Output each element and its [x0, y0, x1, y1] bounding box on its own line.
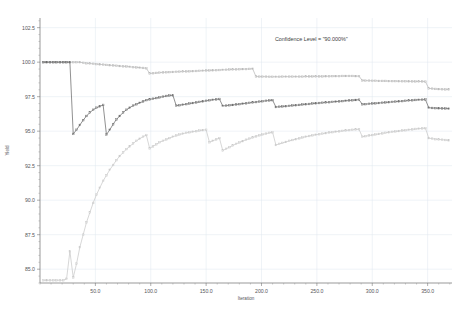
y-tick-label: 97.5 [25, 94, 35, 100]
confidence-level-annotation: Confidence Level = "90.000%" [275, 36, 348, 42]
yield-vs-iteration-chart: 85.087.590.092.595.097.5100.0102.550.010… [0, 0, 463, 310]
x-tick-label: 100.0 [144, 288, 157, 294]
y-axis-title: Yield [5, 145, 10, 155]
y-tick-label: 85.0 [25, 266, 35, 272]
x-tick-label: 50.0 [90, 288, 100, 294]
y-tick-label: 87.5 [25, 232, 35, 238]
x-tick-label: 250.0 [310, 288, 323, 294]
x-tick-label: 200.0 [255, 288, 268, 294]
x-tick-label: 300.0 [366, 288, 379, 294]
chart-container: 85.087.590.092.595.097.5100.0102.550.010… [0, 0, 463, 310]
y-tick-label: 92.5 [25, 163, 35, 169]
chart-background [0, 0, 463, 310]
annotations-layer: Confidence Level = "90.000%" [275, 36, 348, 42]
x-tick-label: 350.0 [421, 288, 434, 294]
y-tick-label: 100.0 [22, 59, 35, 65]
x-tick-label: 150.0 [200, 288, 213, 294]
x-axis-title: Iteration [238, 296, 255, 301]
y-tick-label: 102.5 [22, 25, 35, 31]
y-tick-label: 95.0 [25, 128, 35, 134]
y-tick-label: 90.0 [25, 197, 35, 203]
